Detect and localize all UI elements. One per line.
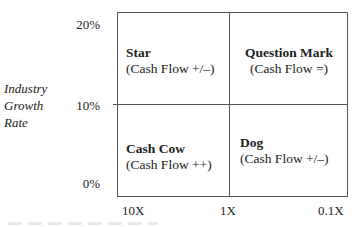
quadrant-dog: Dog (Cash Flow +/–)	[240, 135, 329, 167]
y-axis-title-line: Rate	[4, 114, 47, 131]
quadrant-cash-flow: (Cash Flow =)	[232, 61, 346, 77]
y-axis-title: Industry Growth Rate	[4, 80, 47, 131]
y-tick-0: 0%	[60, 176, 100, 192]
y-tick-20: 20%	[60, 17, 100, 33]
quadrant-title: Dog	[240, 135, 329, 151]
quadrant-cash-cow: Cash Cow (Cash Flow ++)	[126, 141, 212, 173]
x-tick-1x: 1X	[220, 203, 236, 219]
horizontal-divider	[113, 104, 348, 105]
y-axis-title-line: Industry	[4, 80, 47, 97]
quadrant-question-mark: Question Mark (Cash Flow =)	[232, 45, 346, 77]
quadrant-title: Star	[126, 45, 215, 61]
box-bottom-border	[117, 196, 348, 197]
y-axis-title-line: Growth	[4, 97, 47, 114]
x-tick-10x: 10X	[122, 203, 144, 219]
quadrant-cash-flow: (Cash Flow +/–)	[126, 61, 215, 77]
box-top-border	[117, 12, 348, 13]
quadrant-cash-flow: (Cash Flow +/–)	[240, 151, 329, 167]
x-tick-0-1x: 0.1X	[318, 203, 344, 219]
y-tick-10: 10%	[60, 98, 100, 114]
cutoff-caption-remnant	[8, 222, 158, 225]
quadrant-title: Cash Cow	[126, 141, 212, 157]
quadrant-cash-flow: (Cash Flow ++)	[126, 157, 212, 173]
quadrant-title: Question Mark	[232, 45, 346, 61]
quadrant-star: Star (Cash Flow +/–)	[126, 45, 215, 77]
